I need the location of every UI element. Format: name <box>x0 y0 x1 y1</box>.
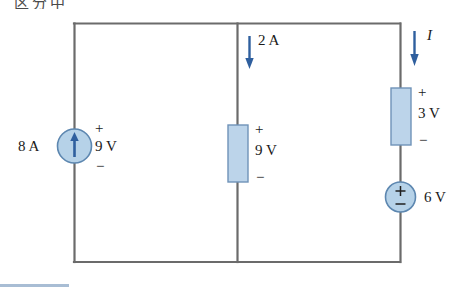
label-middle-voltage: 9 V <box>255 143 277 158</box>
label-right-box-voltage: 3 V <box>418 106 440 121</box>
label-left-current: 8 A <box>18 139 39 154</box>
element-middle-box-rect <box>228 125 248 182</box>
current-source-left <box>58 129 92 163</box>
label-right-box-minus: − <box>419 133 427 148</box>
label-middle-plus: + <box>255 122 263 137</box>
current-arrow-right-head <box>410 54 418 66</box>
current-arrow-right <box>410 31 418 66</box>
label-left-plus: + <box>95 121 103 136</box>
label-left-voltage: 9 V <box>95 139 117 154</box>
footer-divider-rule <box>0 284 69 287</box>
current-arrow-middle-head <box>245 58 253 69</box>
label-middle-current: 2 A <box>258 33 279 48</box>
label-right-box-plus: + <box>418 85 426 100</box>
element-right-box-rect <box>391 88 411 145</box>
circuit-schematic <box>0 0 462 293</box>
label-right-current: I <box>427 28 432 43</box>
label-middle-minus: − <box>256 170 264 185</box>
circuit-diagram-page: 区分中 <box>0 0 462 293</box>
current-arrow-middle <box>245 36 253 69</box>
element-right-box <box>391 88 411 145</box>
label-right-source-voltage: 6 V <box>424 190 446 205</box>
label-left-minus: − <box>96 159 104 174</box>
voltage-source-right <box>386 182 416 212</box>
element-middle-box <box>228 125 248 182</box>
